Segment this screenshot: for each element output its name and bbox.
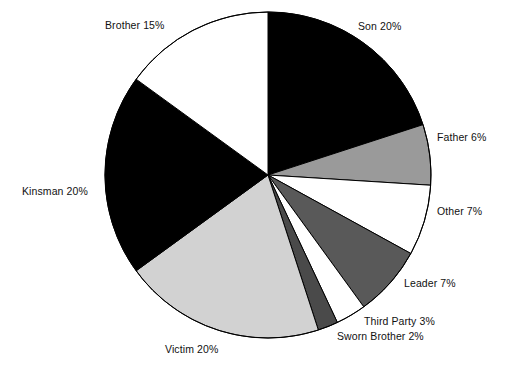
pie-label-third-party: Third Party 3% xyxy=(364,315,435,327)
pie-label-other: Other 7% xyxy=(437,205,482,217)
pie-slice-group xyxy=(105,12,431,338)
pie-label-kinsman: Kinsman 20% xyxy=(22,185,88,197)
pie-label-victim: Victim 20% xyxy=(165,343,218,355)
pie-label-brother: Brother 15% xyxy=(105,19,164,31)
pie-chart: Son 20% Father 6% Other 7% Leader 7% Thi… xyxy=(0,0,507,369)
pie-label-son: Son 20% xyxy=(358,20,401,32)
pie-label-father: Father 6% xyxy=(437,131,486,143)
pie-label-leader: Leader 7% xyxy=(404,277,456,289)
pie-label-sworn-brother: Sworn Brother 2% xyxy=(337,330,424,342)
